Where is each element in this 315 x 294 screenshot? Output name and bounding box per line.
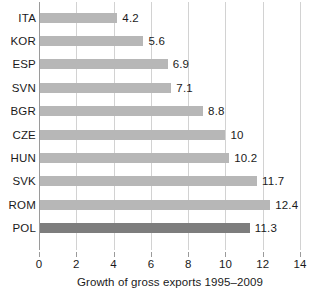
tick-mark [225,252,226,257]
bar-row: KOR5.6 [0,29,315,52]
tick-mark [300,252,301,257]
category-label-ita: ITA [18,12,36,24]
bar-cze [40,130,225,140]
value-label-ita: 4.2 [122,12,139,24]
x-tick-label-2: 2 [63,258,89,270]
category-label-esp: ESP [12,58,36,70]
x-tick-label-12: 12 [250,258,276,270]
x-tick-label-14: 14 [287,258,313,270]
x-tick-label-6: 6 [138,258,164,270]
value-label-hun: 10.2 [234,152,257,164]
category-label-svn: SVN [12,82,36,94]
tick-mark [151,252,152,257]
value-label-rom: 12.4 [275,199,298,211]
category-label-rom: ROM [9,199,36,211]
value-label-svk: 11.7 [262,175,284,187]
category-label-hun: HUN [10,152,36,164]
bar-row: POL11.3 [0,217,315,240]
tick-mark [39,252,40,257]
bar-svk [40,176,257,186]
x-tick-label-10: 10 [212,258,238,270]
bar-row: BGR8.8 [0,100,315,123]
category-label-svk: SVK [12,175,36,187]
bar-svn [40,83,171,93]
tick-mark [263,252,264,257]
value-label-pol: 11.3 [255,222,277,234]
bar-bgr [40,106,203,116]
bar-kor [40,36,143,46]
tick-mark [76,252,77,257]
tick-mark [188,252,189,257]
bar-row: SVK11.7 [0,170,315,193]
tick-mark [114,252,115,257]
category-label-pol: POL [12,222,36,234]
x-axis-title: Growth of gross exports 1995–2009 [39,276,301,288]
bar-row: ESP6.9 [0,53,315,76]
value-label-esp: 6.9 [173,58,190,70]
bar-rom [40,200,270,210]
x-tick-label-4: 4 [101,258,127,270]
category-label-cze: CZE [12,129,36,141]
bar-row: ROM12.4 [0,193,315,216]
bar-row: CZE10 [0,123,315,146]
bar-ita [40,13,117,23]
value-label-kor: 5.6 [148,35,165,47]
x-axis: 02468101214 Growth of gross exports 1995… [0,252,315,294]
x-tick-label-0: 0 [26,258,52,270]
bar-pol [40,223,250,233]
value-label-svn: 7.1 [176,82,193,94]
value-label-cze: 10 [230,129,243,141]
bar-row: SVN7.1 [0,76,315,99]
category-label-bgr: BGR [10,105,36,117]
value-label-bgr: 8.8 [208,105,225,117]
plot-area: ITA4.2KOR5.6ESP6.9SVN7.1BGR8.8CZE10HUN10… [0,0,315,252]
bar-esp [40,59,168,69]
bar-chart: ITA4.2KOR5.6ESP6.9SVN7.1BGR8.8CZE10HUN10… [0,0,315,294]
bar-hun [40,153,229,163]
x-tick-label-8: 8 [175,258,201,270]
bar-row: ITA4.2 [0,6,315,29]
category-label-kor: KOR [10,35,36,47]
bar-row: HUN10.2 [0,146,315,169]
